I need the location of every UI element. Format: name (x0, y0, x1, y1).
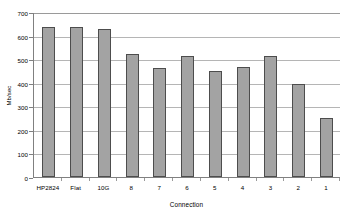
bar-slot (257, 13, 285, 177)
bar[interactable] (237, 67, 250, 177)
x-axis-tick-label: 6 (173, 182, 201, 194)
x-axis-tick-label: 2 (284, 182, 312, 194)
bar-series (35, 13, 340, 177)
y-axis-ticks: 7006005004003002001000 (0, 13, 33, 178)
bar[interactable] (126, 54, 139, 177)
y-axis-tick-label: 200 (0, 127, 28, 134)
y-axis-tick-label: 700 (0, 10, 28, 17)
y-axis-tick-label: 500 (0, 57, 28, 64)
y-axis-tick-label: 100 (0, 151, 28, 158)
x-axis-tick-label: Flat (62, 182, 90, 194)
bar-slot (285, 13, 313, 177)
y-axis-tick-mark (29, 178, 33, 179)
bar[interactable] (264, 56, 277, 177)
bar[interactable] (320, 118, 333, 177)
bar-slot (146, 13, 174, 177)
bar[interactable] (42, 27, 55, 177)
x-axis-title: Connection (33, 200, 340, 209)
x-axis-tick-label: HP2824 (34, 182, 62, 194)
bar[interactable] (292, 84, 305, 177)
bar-chart: Mb/sec 7006005004003002001000 HP2824Flat… (0, 0, 350, 223)
bar-slot (63, 13, 91, 177)
bar[interactable] (70, 27, 83, 177)
x-axis-tick-label: 3 (257, 182, 285, 194)
x-axis-tick-label: 7 (145, 182, 173, 194)
bar[interactable] (153, 68, 166, 177)
bar-slot (35, 13, 63, 177)
x-axis-labels: HP2824Flat10G87654321 (34, 182, 340, 194)
bar-slot (201, 13, 229, 177)
bar[interactable] (209, 71, 222, 177)
y-axis-tick-label: 400 (0, 80, 28, 87)
x-axis-tick-label: 5 (201, 182, 229, 194)
bar[interactable] (98, 29, 111, 178)
plot-area (33, 13, 340, 178)
bar-slot (174, 13, 202, 177)
y-axis-tick-label: 600 (0, 33, 28, 40)
bar-slot (312, 13, 340, 177)
x-axis-tick-label: 8 (117, 182, 145, 194)
x-axis-tick-label: 10G (90, 182, 118, 194)
bar-slot (229, 13, 257, 177)
bar-slot (90, 13, 118, 177)
x-axis-tick-label: 4 (229, 182, 257, 194)
bar-slot (118, 13, 146, 177)
x-axis-tick-label: 1 (312, 182, 340, 194)
y-axis-tick-label: 0 (0, 175, 28, 182)
y-axis-tick-label: 300 (0, 104, 28, 111)
bar[interactable] (181, 56, 194, 177)
